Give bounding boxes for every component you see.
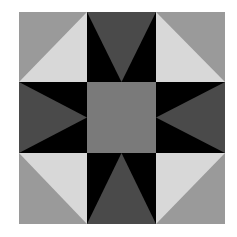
corner-bottom-left — [19, 153, 87, 224]
corner-top-right — [156, 12, 225, 82]
center-square — [87, 82, 156, 153]
side-bottom-center — [87, 153, 156, 224]
side-middle-right — [156, 82, 225, 153]
side-top-center — [87, 12, 156, 82]
side-middle-left — [19, 82, 87, 153]
corner-top-left — [19, 12, 87, 82]
quilt-block — [19, 12, 225, 224]
corner-bottom-right — [156, 153, 225, 224]
